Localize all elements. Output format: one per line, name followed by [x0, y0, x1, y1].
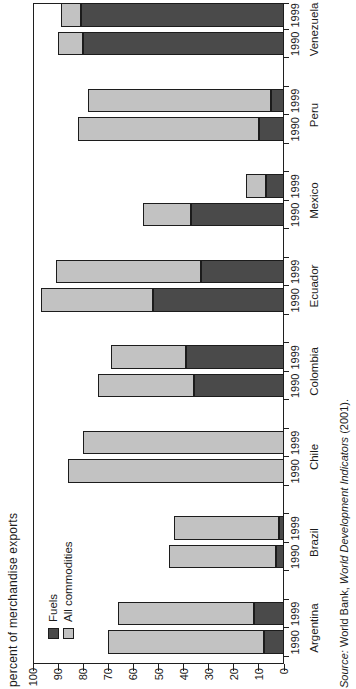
year-label-peru-1999: 1999: [289, 87, 302, 116]
source-prefix: Source:: [338, 650, 350, 688]
bar-venezuela-1990-all-commodities: [58, 32, 83, 56]
country-label-venezuela: Venezuela: [307, 1, 321, 58]
year-label-colombia-1990: 1990: [289, 372, 302, 401]
percent-tick-label-20: 20: [228, 668, 240, 689]
bar-colombia-1990-fuels: [194, 374, 284, 398]
all-commodities-swatch-icon: [63, 628, 74, 639]
bar-brazil-1990-fuels: [276, 545, 284, 569]
year-label-colombia-1999: 1999: [289, 343, 302, 372]
bar-peru-1990-fuels: [259, 118, 284, 142]
year-label-argentina-1990: 1990: [289, 628, 302, 657]
percent-tick-label-10: 10: [253, 668, 265, 689]
legend-label-all-commodities: All commodities: [62, 541, 74, 622]
country-label-peru: Peru: [307, 87, 321, 144]
year-label-venezuela-1990: 1990: [289, 30, 302, 59]
country-label-mexico: Mexico: [307, 172, 321, 229]
year-label-brazil-1999: 1999: [289, 514, 302, 543]
percent-tick-label-60: 60: [127, 668, 139, 689]
bar-venezuela-1999-fuels: [81, 4, 284, 28]
bar-venezuela-1990-fuels: [83, 32, 284, 56]
bar-colombia-1999-fuels: [186, 346, 284, 370]
legend-label-fuels: Fuels: [47, 594, 59, 622]
bar-peru-1990-all-commodities: [78, 118, 259, 142]
country-label-argentina: Argentina: [307, 600, 321, 657]
bar-chile-1990-all-commodities: [68, 460, 284, 484]
source-suffix: (2001).: [338, 399, 350, 437]
source-publication: World Development Indicators: [338, 437, 350, 584]
bar-argentina-1999-fuels: [254, 602, 284, 626]
year-label-argentina-1999: 1999: [289, 600, 302, 629]
year-label-peru-1990: 1990: [289, 115, 302, 144]
percent-tick-label-0: 0: [278, 668, 290, 689]
year-label-venezuela-1999: 1999: [289, 1, 302, 30]
bar-argentina-1999-all-commodities: [118, 602, 254, 626]
country-label-colombia: Colombia: [307, 343, 321, 400]
bar-brazil-1999-all-commodities: [174, 517, 279, 541]
year-label-chile-1999: 1999: [289, 429, 302, 458]
bar-ecuador-1999-fuels: [201, 260, 284, 284]
year-label-ecuador-1990: 1990: [289, 286, 302, 315]
y-axis-title: percent of merchandise exports: [6, 513, 20, 687]
percent-tick-label-40: 40: [178, 668, 190, 689]
bar-mexico-1999-all-commodities: [246, 175, 266, 199]
bar-venezuela-1999-all-commodities: [61, 4, 81, 28]
bar-peru-1999-all-commodities: [88, 89, 271, 113]
percent-tick-label-100: 100: [27, 668, 39, 689]
scanned-chart-page: percent of merchandise exports Fuels All…: [0, 0, 356, 689]
bar-argentina-1990-fuels: [264, 631, 284, 655]
bar-ecuador-1999-all-commodities: [56, 260, 202, 284]
year-label-mexico-1990: 1990: [289, 201, 302, 230]
fuels-swatch-icon: [48, 628, 59, 639]
rotated-chart-stage: percent of merchandise exports Fuels All…: [0, 0, 356, 689]
percent-tick-label-50: 50: [153, 668, 165, 689]
bar-argentina-1990-all-commodities: [108, 631, 264, 655]
bar-mexico-1990-fuels: [191, 203, 284, 227]
bar-colombia-1999-all-commodities: [111, 346, 186, 370]
bar-mexico-1990-all-commodities: [143, 203, 191, 227]
percent-tick-label-30: 30: [203, 668, 215, 689]
bar-ecuador-1990-fuels: [153, 289, 284, 313]
country-label-chile: Chile: [307, 429, 321, 486]
year-label-ecuador-1999: 1999: [289, 258, 302, 287]
percent-tick-label-80: 80: [77, 668, 89, 689]
year-label-chile-1990: 1990: [289, 457, 302, 486]
percent-tick-label-70: 70: [102, 668, 114, 689]
bar-colombia-1990-all-commodities: [98, 374, 193, 398]
bar-peru-1999-fuels: [271, 89, 284, 113]
bar-ecuador-1990-all-commodities: [41, 289, 154, 313]
bar-mexico-1999-fuels: [266, 175, 284, 199]
year-label-brazil-1990: 1990: [289, 543, 302, 572]
bar-chile-1999-all-commodities: [83, 431, 284, 455]
country-label-ecuador: Ecuador: [307, 258, 321, 315]
bar-brazil-1990-all-commodities: [169, 545, 277, 569]
legend: Fuels All commodities: [46, 541, 76, 639]
percent-tick-label-90: 90: [52, 668, 64, 689]
bar-brazil-1999-fuels: [279, 517, 284, 541]
legend-row-fuels: Fuels: [46, 541, 60, 639]
year-label-mexico-1999: 1999: [289, 172, 302, 201]
country-label-brazil: Brazil: [307, 514, 321, 571]
source-note: Source: World Bank, World Development In…: [338, 399, 350, 688]
legend-row-all-commodities: All commodities: [61, 541, 75, 639]
source-middle: World Bank,: [338, 584, 350, 650]
